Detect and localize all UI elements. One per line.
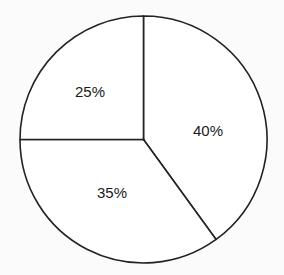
pie-slice-25 (20, 16, 144, 140)
slice-label-25: 25% (75, 83, 105, 100)
pie-chart: 40% 35% 25% (0, 0, 284, 275)
center-point (142, 138, 144, 140)
slice-label-35: 35% (97, 184, 127, 201)
slice-label-40: 40% (193, 122, 223, 139)
